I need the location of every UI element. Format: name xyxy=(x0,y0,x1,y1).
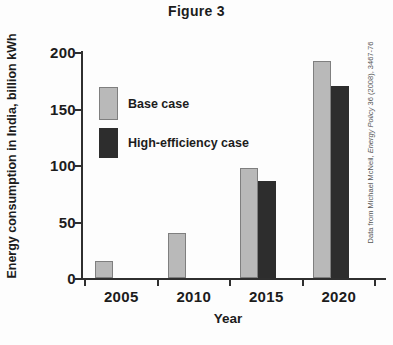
y-tick-label: 100 xyxy=(25,157,76,175)
legend-item-base-case: Base case xyxy=(99,87,249,120)
x-tick xyxy=(229,280,231,286)
figure-page: Figure 3 Energy consumption in India, bi… xyxy=(0,0,393,345)
x-category-label: 2010 xyxy=(164,288,224,305)
bar-base-case-2020 xyxy=(313,61,331,278)
legend-swatch-high-efficiency-case xyxy=(99,128,118,158)
x-category-label: 2005 xyxy=(91,288,151,305)
x-axis-title: Year xyxy=(148,311,308,326)
credit-text-suffix: 36 (2008), 3467-76 xyxy=(366,42,375,108)
legend-item-high-efficiency-case: High-efficiency case xyxy=(99,128,249,158)
bar-base-case-2015 xyxy=(240,168,258,278)
bar-base-case-2005 xyxy=(95,261,113,278)
legend-label-base-case: Base case xyxy=(128,97,189,111)
y-tick-label: 200 xyxy=(25,44,76,62)
credit-text-prefix: Data from Michael McNeil, xyxy=(366,153,375,243)
y-tick-label: 50 xyxy=(25,214,76,232)
y-axis-title: Energy consumption in India, billion kWh xyxy=(5,20,23,292)
x-tick xyxy=(302,280,304,286)
bar-high-efficiency-case-2015 xyxy=(258,181,276,278)
legend: Base case High-efficiency case xyxy=(99,87,249,166)
x-tick xyxy=(84,280,86,286)
x-axis-line xyxy=(81,278,386,280)
legend-label-high-efficiency-case: High-efficiency case xyxy=(128,136,249,150)
x-tick xyxy=(374,280,376,286)
y-tick-label: 150 xyxy=(25,101,76,119)
bar-base-case-2010 xyxy=(168,233,186,278)
source-credit: Data from Michael McNeil, Energy Policy … xyxy=(366,36,377,250)
y-axis-line xyxy=(81,51,83,280)
bar-high-efficiency-case-2020 xyxy=(331,86,349,278)
x-category-label: 2015 xyxy=(236,288,296,305)
legend-swatch-base-case xyxy=(99,87,118,120)
figure-title: Figure 3 xyxy=(0,3,393,19)
y-tick-label: 0 xyxy=(25,270,76,288)
x-category-label: 2020 xyxy=(309,288,369,305)
x-tick xyxy=(157,280,159,286)
credit-journal-name: Energy Policy xyxy=(366,108,375,154)
